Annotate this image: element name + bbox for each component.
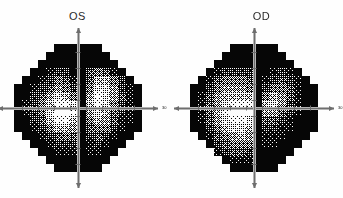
plot-area-od: 30 [172,22,343,194]
visual-field-plot-os [0,22,171,194]
panel-os: OS 30 [0,0,171,198]
visual-field-plot-od [172,22,343,194]
x-axis-label-os: 30 [162,105,166,110]
panel-od: OD 30 [172,0,343,198]
visual-field-figure: OS 30 OD 30 [0,0,343,198]
x-axis-label-od: 30 [338,105,342,110]
plot-area-os: 30 [0,22,171,194]
